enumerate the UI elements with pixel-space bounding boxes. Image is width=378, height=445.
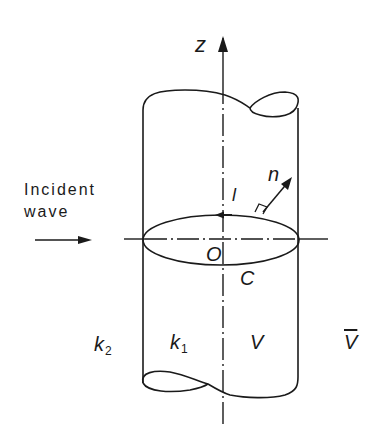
diagram-graphics: [0, 0, 378, 445]
inner-region-label: V: [250, 332, 263, 352]
normal-label: n: [268, 164, 279, 184]
origin-label: O: [206, 244, 222, 264]
inner-wavenumber-label: k1: [170, 332, 188, 355]
incident-wave-label-line1: Incident: [24, 182, 96, 198]
z-axis-label: z: [195, 34, 206, 56]
incident-wave-label-line2: wave: [24, 204, 69, 220]
right-angle-marker: [255, 204, 267, 214]
outer-wavenumber-label: k2: [94, 334, 112, 357]
cylinder-top-cut: [143, 90, 298, 117]
z-arrow-head: [218, 36, 228, 52]
outer-region-label: V: [344, 332, 357, 352]
contour-label: C: [240, 268, 254, 288]
cylinder-scattering-diagram: z Incident wave l n O C k2 k1 V V: [0, 0, 378, 445]
tangent-label: l: [232, 186, 236, 204]
cylinder-bottom-cut: [143, 371, 298, 397]
